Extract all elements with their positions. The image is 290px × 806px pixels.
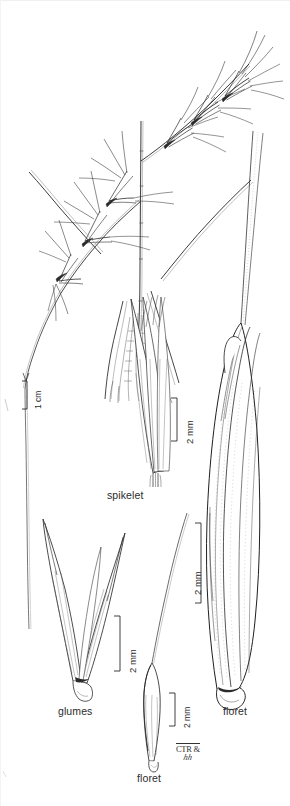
leaf-fragment: [3, 399, 8, 777]
spikelet-scale-label: 2 mm: [185, 420, 195, 444]
glumes-figure: [43, 519, 125, 701]
botanical-artwork: [1, 1, 290, 806]
floret-large-figure: [206, 131, 263, 710]
artist-signature: CTR & hh: [176, 743, 200, 762]
signature-line-2: hh: [175, 753, 201, 762]
illustration-plate: 1 cm 2 mm 2 mm 2 mm 2 mm spikelet glumes…: [0, 0, 290, 806]
glumes-scale-label: 2 mm: [128, 649, 138, 673]
floret-small-scale-bar: [169, 693, 175, 726]
figure-label-spikelet: spikelet: [107, 490, 143, 501]
figure-label-glumes: glumes: [58, 706, 92, 717]
habit-scale-label: 1 cm: [34, 391, 43, 409]
floret-small-figure: [144, 513, 189, 772]
spikelet-figure: [131, 295, 170, 487]
spikelet-scale-bar: [171, 398, 177, 441]
figure-label-floret-small: floret: [137, 773, 161, 784]
floret-small-scale-label: 2 mm: [183, 707, 192, 728]
figure-label-floret-large: floret: [223, 706, 247, 717]
habit-scale-bar: [22, 381, 27, 409]
glumes-scale-bar: [114, 616, 120, 671]
floret-large-scale-label: 2 mm: [193, 571, 203, 595]
